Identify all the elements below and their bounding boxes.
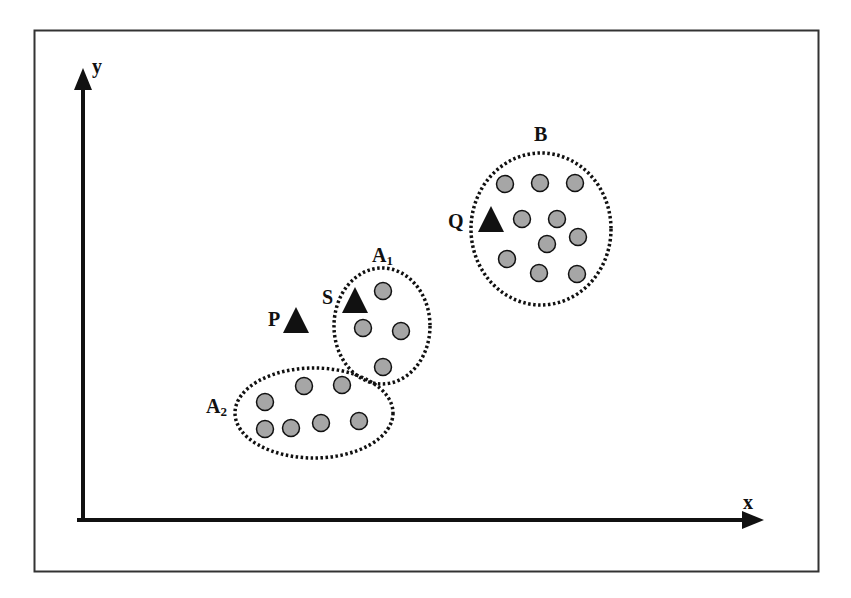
point-p-label: P <box>268 308 280 330</box>
data-point-icon <box>351 413 368 430</box>
data-point-icon <box>567 175 584 192</box>
data-point-icon <box>334 377 351 394</box>
data-point-icon <box>257 421 274 438</box>
y-axis-arrow-icon <box>74 68 92 90</box>
cluster-b-label: B <box>534 123 547 145</box>
data-point-icon <box>355 320 372 337</box>
y-axis-label: y <box>92 55 102 78</box>
data-point-icon <box>375 359 392 376</box>
data-point-icon <box>499 251 516 268</box>
data-point-icon <box>514 211 531 228</box>
x-axis-label: x <box>743 491 753 513</box>
data-point-icon <box>570 229 587 246</box>
cluster-a2-label: A2 <box>206 395 227 419</box>
data-point-icon <box>257 394 274 411</box>
triangle-s-icon <box>342 287 368 313</box>
data-point-icon <box>375 283 392 300</box>
data-point-icon <box>313 415 330 432</box>
data-point-icon <box>569 266 586 283</box>
data-point-icon <box>532 175 549 192</box>
triangle-p-icon <box>283 307 309 333</box>
data-point-icon <box>283 420 300 437</box>
data-point-icon <box>497 176 514 193</box>
point-q-label: Q <box>448 210 464 232</box>
data-point-icon <box>531 265 548 282</box>
frame <box>35 31 819 572</box>
data-point-icon <box>393 323 410 340</box>
triangle-q-icon <box>478 206 504 232</box>
x-axis-arrow-icon <box>742 511 764 529</box>
cluster-a1 <box>334 268 430 384</box>
data-point-icon <box>539 236 556 253</box>
diagram-canvas: y x B A1 A2 P S Q <box>0 0 851 598</box>
cluster-a1-label: A1 <box>372 244 393 268</box>
point-s-label: S <box>322 286 333 308</box>
data-point-icon <box>549 211 566 228</box>
data-point-icon <box>296 378 313 395</box>
clusters <box>235 153 611 458</box>
